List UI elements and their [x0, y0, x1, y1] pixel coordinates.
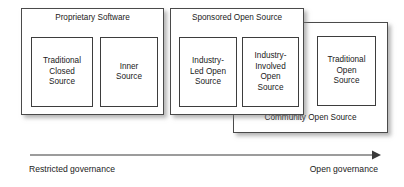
group-title-proprietary-software: Proprietary Software: [22, 13, 163, 23]
item-label-inner-source: Inner Source: [114, 62, 144, 83]
item-label-industry-involved-open-source: Industry- Involved Open Source: [253, 51, 289, 93]
group-box-sponsored-open-source: Sponsored Open Source Industry- Led Open…: [170, 8, 304, 115]
item-label-traditional-open-source: Traditional Open Source: [326, 55, 368, 87]
item-box-industry-involved-open-source: Industry- Involved Open Source: [242, 37, 299, 107]
governance-spectrum-diagram: Community Open Source Traditional Open S…: [0, 0, 404, 187]
item-label-traditional-closed-source: Traditional Closed Source: [41, 56, 83, 88]
group-box-proprietary-software: Proprietary Software Traditional Closed …: [21, 8, 164, 115]
axis-arrowhead-icon: [372, 151, 381, 160]
axis-label-restricted-governance: Restricted governance: [29, 164, 115, 174]
item-box-inner-source: Inner Source: [100, 37, 158, 107]
item-label-industry-led-open-source: Industry- Led Open Source: [188, 56, 228, 88]
item-box-industry-led-open-source: Industry- Led Open Source: [179, 37, 237, 107]
group-title-sponsored-open-source: Sponsored Open Source: [171, 13, 303, 23]
axis-label-open-governance: Open governance: [310, 164, 378, 174]
item-box-traditional-open-source: Traditional Open Source: [317, 36, 376, 106]
item-box-traditional-closed-source: Traditional Closed Source: [31, 37, 93, 107]
